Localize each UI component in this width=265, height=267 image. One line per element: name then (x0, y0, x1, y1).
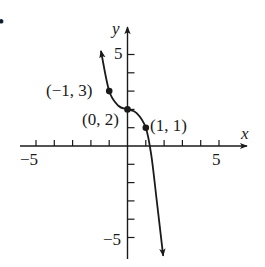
x-tick-label-neg5: −5 (20, 150, 38, 169)
point-label-0-2: (0, 2) (82, 110, 119, 129)
y-axis-label: y (110, 19, 120, 38)
function-graph: • x y −5 5 5 −5 (−1, 3) (0, 2) (1, 1) (0, 0, 265, 267)
point-0-2 (124, 106, 131, 113)
point-label-1-1: (1, 1) (150, 116, 187, 135)
point-1-1 (143, 124, 150, 131)
function-curve (101, 51, 163, 256)
point-label-neg1-3: (−1, 3) (46, 81, 92, 100)
x-axis-label: x (240, 124, 249, 143)
y-tick-label-5: 5 (114, 44, 123, 63)
x-tick-label-5: 5 (212, 150, 221, 169)
problem-bullet: • (0, 12, 4, 32)
y-tick-label-neg5: −5 (103, 230, 121, 249)
point-neg1-3 (106, 88, 113, 95)
